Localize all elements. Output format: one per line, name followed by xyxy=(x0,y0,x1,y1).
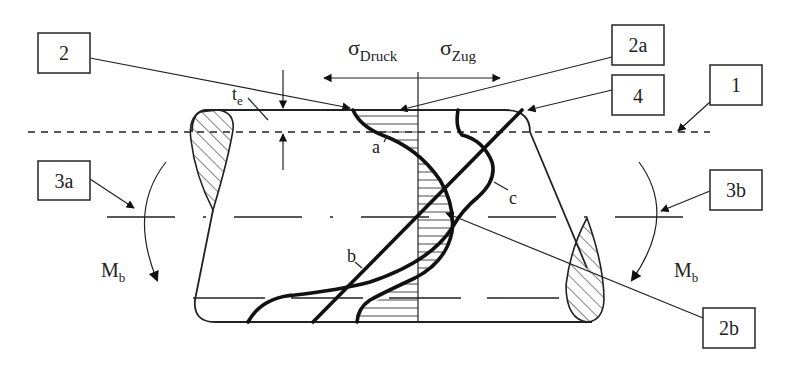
leader-2 xyxy=(90,58,350,108)
callout-2: 2 xyxy=(38,33,90,73)
leader-3a xyxy=(90,179,134,208)
curve-b xyxy=(248,110,493,322)
svg-text:3b: 3b xyxy=(726,179,746,201)
svg-text:1: 1 xyxy=(731,74,741,96)
svg-text:a: a xyxy=(372,137,380,157)
curve-label-c: c xyxy=(494,182,517,208)
svg-text:2a: 2a xyxy=(629,34,648,56)
bending-moment-right: Mb xyxy=(632,162,698,285)
leader-1 xyxy=(678,102,710,131)
bending-moment-left: Mb xyxy=(101,162,166,285)
diagram-canvas: te σDruck σZug a b c Mb Mb 2 2a 4 xyxy=(0,0,794,368)
svg-text:b: b xyxy=(347,246,356,266)
callout-4: 4 xyxy=(612,75,664,115)
svg-text:2: 2 xyxy=(59,42,69,64)
case-depth-dimension: te xyxy=(232,70,283,170)
svg-text:Mb: Mb xyxy=(674,259,698,285)
leader-4 xyxy=(528,90,612,110)
callout-2b: 2b xyxy=(703,308,755,348)
leader-3b xyxy=(661,191,710,211)
curve-label-b: b xyxy=(347,246,362,268)
leader-2a xyxy=(400,57,612,110)
svg-text:2b: 2b xyxy=(719,317,739,339)
curve-label-a: a xyxy=(372,136,387,157)
callout-3b: 3b xyxy=(710,170,762,210)
svg-text:4: 4 xyxy=(633,85,643,107)
compression-stress-label: σDruck xyxy=(348,35,398,64)
hatched-stress-area xyxy=(353,110,453,322)
tension-stress-label: σZug xyxy=(440,35,477,64)
svg-text:Mb: Mb xyxy=(101,259,125,285)
callout-2a: 2a xyxy=(612,25,664,65)
svg-text:3a: 3a xyxy=(55,170,74,192)
svg-text:c: c xyxy=(509,188,517,208)
callout-1: 1 xyxy=(710,65,762,105)
hatched-region-left xyxy=(190,110,233,210)
callout-3a: 3a xyxy=(38,161,90,200)
